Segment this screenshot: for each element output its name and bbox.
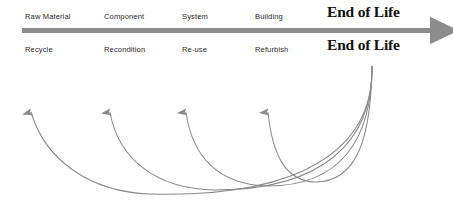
end-of-life-label-bottom: End of Life xyxy=(327,36,400,53)
stage-label-building: Building xyxy=(255,12,283,22)
diagram-canvas xyxy=(0,0,453,215)
stage-label-component: Component xyxy=(104,12,144,22)
lifecycle-diagram: Raw Material Component System Building E… xyxy=(0,0,453,215)
recovery-curve-recondition xyxy=(110,66,372,190)
stage-label-raw-material: Raw Material xyxy=(25,12,71,22)
stage-label-re-use: Re-use xyxy=(182,45,207,55)
stage-label-recondition: Recondition xyxy=(104,45,145,55)
stage-label-recycle: Recycle xyxy=(25,45,53,55)
end-of-life-label-top: End of Life xyxy=(327,3,400,20)
stage-label-system: System xyxy=(182,12,208,22)
recovery-loop-curves xyxy=(31,66,372,194)
stage-label-refurbish: Refurbish xyxy=(255,45,288,55)
recovery-curve-refurbish xyxy=(268,66,372,182)
recovery-curve-reuse xyxy=(186,66,372,186)
